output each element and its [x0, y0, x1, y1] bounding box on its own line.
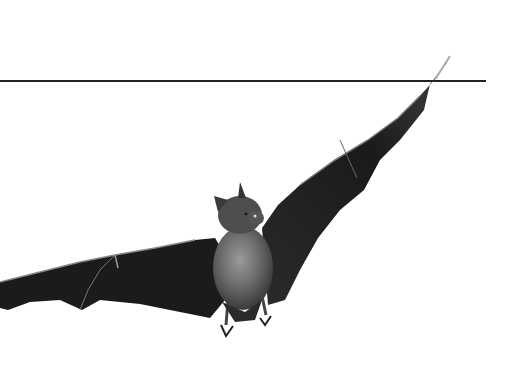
left-wing: [0, 238, 230, 318]
bat-body: [213, 182, 273, 336]
right-wing: [262, 56, 450, 305]
photo-scene: [0, 0, 526, 386]
bat-illustration: [0, 0, 526, 386]
